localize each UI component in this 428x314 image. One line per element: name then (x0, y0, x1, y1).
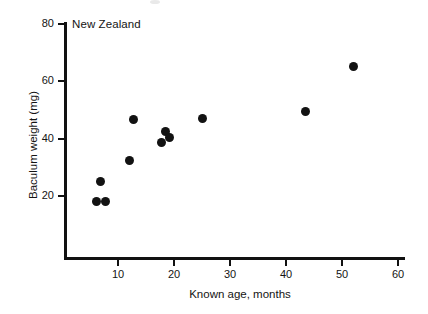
data-point (96, 177, 105, 186)
data-point (129, 115, 138, 124)
scatter-plot-figure: New Zealand 20406080 102030405060 Known … (0, 0, 428, 314)
data-point (301, 107, 310, 116)
data-point (125, 156, 134, 165)
data-point (349, 62, 358, 71)
data-point (92, 197, 101, 206)
data-point (198, 114, 207, 123)
data-point (101, 197, 110, 206)
data-point (165, 133, 174, 142)
data-points-layer (0, 0, 428, 314)
